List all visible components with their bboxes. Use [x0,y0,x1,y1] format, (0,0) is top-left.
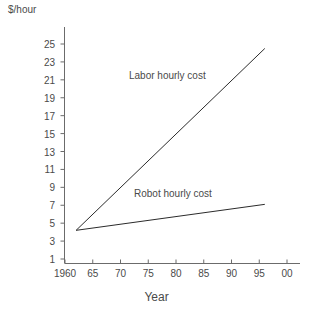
y-axis-tick-label: 15 [25,128,55,139]
x-axis-title: Year [0,290,313,304]
y-axis-tick-label: 13 [25,146,55,157]
x-axis-tick-label: 1960 [54,268,76,279]
y-axis-tick-label: 23 [25,56,55,67]
y-axis-tick-label: 11 [25,164,55,175]
y-axis-tick-label: 7 [25,200,55,211]
series-label-labor: Labor hourly cost [129,70,206,81]
x-axis-tick-label: 00 [281,268,292,279]
x-axis-tick-label: 75 [143,268,154,279]
chart-container: $/hour 135791113151719212325 19606570758… [0,0,313,319]
data-line-robot [76,204,265,230]
y-axis-tick-label: 1 [25,254,55,265]
x-axis-ticks [65,260,287,264]
x-axis-tick-label: 70 [115,268,126,279]
x-axis-tick-label: 80 [170,268,181,279]
y-axis-tick-label: 25 [25,39,55,50]
series-label-robot: Robot hourly cost [134,188,212,199]
y-axis-ticks [61,44,65,259]
y-axis-tick-label: 17 [25,110,55,121]
x-axis-tick-label: 95 [254,268,265,279]
y-axis-tick-label: 19 [25,92,55,103]
y-axis-tick-label: 5 [25,218,55,229]
y-axis-tick-label: 21 [25,74,55,85]
x-axis-tick-label: 85 [198,268,209,279]
y-axis-tick-label: 3 [25,236,55,247]
x-axis-tick-label: 90 [226,268,237,279]
x-axis-tick-label: 65 [87,268,98,279]
y-axis-tick-label: 9 [25,182,55,193]
